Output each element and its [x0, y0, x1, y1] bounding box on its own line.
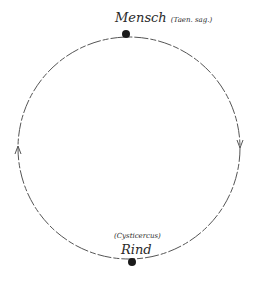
- cycle-circle: [18, 37, 240, 259]
- node-label-mensch: Mensch (Taen. sag.): [115, 10, 212, 25]
- node-label-rind: Rind: [121, 242, 152, 257]
- node-sublabel-rind: (Cysticercus): [114, 232, 161, 240]
- node-title: Mensch: [115, 10, 167, 25]
- node-dot-rind: [128, 258, 136, 266]
- node-subtitle: (Taen. sag.): [171, 16, 212, 24]
- node-dot-mensch: [122, 30, 130, 38]
